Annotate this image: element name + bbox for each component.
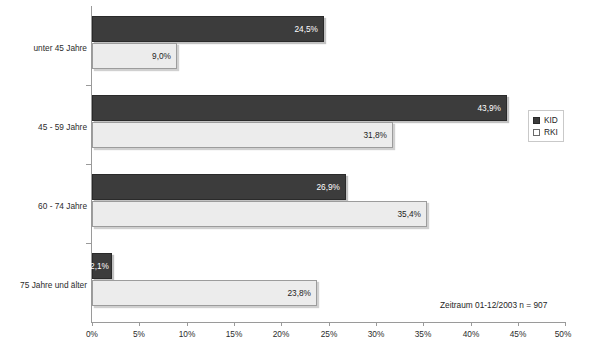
x-axis-tick-label: 0% [86,329,98,339]
y-axis-tick [86,85,92,86]
category-label-3: 75 Jahre und älter [0,280,87,290]
bar-value-label: 2,1% [90,262,109,270]
x-axis-tick [281,322,282,326]
x-axis-tick-label: 10% [179,329,196,339]
bar-rki-1: 31,8% [92,122,393,148]
x-axis-tick-label: 25% [321,329,338,339]
bar-value-label: 24,5% [294,25,318,33]
category-label-text: 75 Jahre und älter [20,280,87,290]
bar-kid-3: 2,1% [92,253,112,279]
bar-value-label: 23,8% [287,289,311,297]
category-label-1: 45 - 59 Jahre [0,122,87,132]
bar-value-label: 31,8% [363,131,387,139]
y-axis-tick [86,243,92,244]
x-axis-tick [376,322,377,326]
x-axis-tick [423,322,424,326]
x-axis-tick-label: 35% [415,329,432,339]
category-label-text: 45 - 59 Jahre [38,122,87,132]
x-axis-tick-label: 15% [226,329,243,339]
x-axis-tick [329,322,330,326]
legend-label: KID [544,116,558,124]
outlined-white-square-icon [533,129,540,136]
legend-item-rki: RKI [533,126,558,138]
x-axis-tick [139,322,140,326]
x-axis-tick [234,322,235,326]
category-label-text: unter 45 Jahre [33,43,87,53]
category-label-text: 60 - 74 Jahre [38,201,87,211]
bar-rki-0: 9,0% [92,43,177,69]
bar-chart: unter 45 Jahre 45 - 59 Jahre 60 - 74 Jah… [0,0,593,352]
x-axis-tick-label: 45% [510,329,527,339]
x-axis-tick-label: 50% [555,329,572,339]
bar-rki-2: 35,4% [92,201,427,227]
legend-label: RKI [544,128,558,136]
chart-annotation: Zeitraum 01-12/2003 n = 907 [440,300,547,310]
x-axis-tick [471,322,472,326]
x-axis-tick [187,322,188,326]
bar-rki-3: 23,8% [92,280,317,306]
x-axis-tick-label: 20% [273,329,290,339]
bar-kid-2: 26,9% [92,174,346,200]
category-label-2: 60 - 74 Jahre [0,201,87,211]
x-axis-tick-label: 30% [368,329,385,339]
category-label-0: unter 45 Jahre [0,43,87,53]
x-axis-tick [565,322,566,326]
bar-value-label: 35,4% [397,210,421,218]
bar-kid-0: 24,5% [92,16,324,42]
bar-value-label: 43,9% [477,104,501,112]
bar-value-label: 26,9% [316,183,340,191]
x-axis-tick [518,322,519,326]
x-axis-tick-label: 40% [463,329,480,339]
y-axis-tick [86,164,92,165]
chart-legend: KID RKI [528,110,564,142]
legend-item-kid: KID [533,114,558,126]
x-axis-tick-label: 5% [133,329,145,339]
x-axis-tick [92,322,93,326]
bar-value-label: 9,0% [152,52,171,60]
filled-dark-square-icon [533,117,540,124]
bar-kid-1: 43,9% [92,95,507,121]
